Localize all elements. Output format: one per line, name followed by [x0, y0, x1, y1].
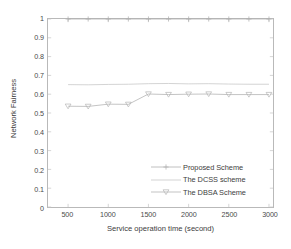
data-point-marker	[163, 165, 168, 170]
figure-chart-network-fairness: 00.10.20.30.40.50.60.70.80.91 Network Fa…	[0, 0, 291, 249]
legend-item[interactable]: The DBSA Scheme	[149, 186, 261, 199]
y-axis-tick-label: 1	[40, 14, 44, 23]
y-axis-tick-label: 0.9	[34, 33, 44, 42]
legend-item-label: The DCSS scheme	[183, 175, 246, 184]
legend-key-triangle-down-icon	[149, 186, 183, 198]
data-point-marker	[166, 16, 171, 21]
x-axis-tick-label: 1000	[100, 210, 116, 219]
data-point-marker	[186, 16, 191, 21]
data-point-marker	[126, 16, 131, 21]
legend-key-line	[149, 174, 183, 186]
data-point-marker	[246, 16, 251, 21]
x-axis-title: Service operation time (second)	[47, 224, 274, 233]
x-axis-tick-label: 500	[61, 210, 73, 219]
x-axis-tick-label: 2000	[181, 210, 197, 219]
legend-item-label: The DBSA Scheme	[183, 188, 246, 197]
y-axis-tick-label: 0.5	[34, 109, 44, 118]
data-point-marker	[86, 16, 91, 21]
legend-item[interactable]: The DCSS scheme	[149, 174, 261, 187]
x-axis-tick-label: 3000	[262, 210, 278, 219]
y-axis-tick-labels: 00.10.20.30.40.50.60.70.80.91	[0, 18, 44, 208]
series-line	[68, 83, 269, 84]
legend-key-plus-icon	[149, 161, 183, 173]
x-axis-tick-label: 2500	[222, 210, 238, 219]
x-axis-tick-labels: 50010001500200025003000	[47, 210, 274, 222]
y-axis-tick-label: 0.1	[34, 185, 44, 194]
series-3	[65, 92, 272, 109]
y-axis-tick-label: 0.2	[34, 166, 44, 175]
data-point-marker	[226, 16, 231, 21]
x-axis-tick-label: 1500	[141, 210, 157, 219]
legend-item-label: Proposed Scheme	[183, 163, 243, 172]
series-2	[68, 83, 269, 84]
data-point-marker	[106, 16, 111, 21]
chart-legend: Proposed SchemeThe DCSS schemeThe DBSA S…	[149, 161, 261, 201]
y-axis-tick-label: 0.3	[34, 147, 44, 156]
data-point-marker	[206, 16, 211, 21]
y-axis-tick-label: 0.8	[34, 52, 44, 61]
data-point-marker	[66, 16, 71, 21]
y-axis-tick-label: 0.6	[34, 90, 44, 99]
series-1	[66, 16, 272, 21]
y-axis-tick-label: 0.4	[34, 128, 44, 137]
y-axis-tick-label: 0	[40, 204, 44, 213]
legend-item[interactable]: Proposed Scheme	[149, 161, 261, 174]
data-point-marker	[266, 16, 271, 21]
series-line	[68, 94, 269, 106]
y-axis-tick-label: 0.7	[34, 71, 44, 80]
y-axis-title: Network Fairness	[9, 44, 18, 174]
data-point-marker	[146, 16, 151, 21]
